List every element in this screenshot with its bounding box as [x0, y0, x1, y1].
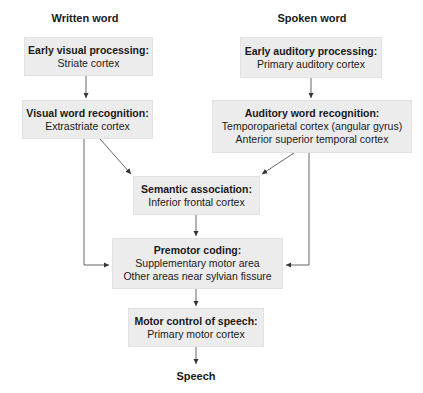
box-title: Motor control of speech: — [129, 315, 263, 328]
box-line: Inferior frontal cortex — [134, 196, 259, 209]
auditory-word-recognition-box: Auditory word recognition: Temporopariet… — [212, 100, 412, 153]
visual-word-recognition-box: Visual word recognition: Extrastriate co… — [22, 100, 153, 139]
written-word-heading: Written word — [35, 12, 135, 24]
box-title: Visual word recognition: — [23, 107, 152, 120]
early-visual-processing-box: Early visual processing: Striate cortex — [24, 37, 153, 76]
box-line: Striate cortex — [25, 57, 152, 70]
motor-control-box: Motor control of speech: Primary motor c… — [128, 308, 264, 347]
box-line: Temporoparietal cortex (angular gyrus) — [213, 120, 411, 133]
box-title: Early auditory processing: — [241, 45, 381, 58]
box-line: Supplementary motor area — [113, 257, 282, 270]
box-line: Primary auditory cortex — [241, 58, 381, 71]
box-line: Anterior superior temporal cortex — [213, 133, 411, 146]
box-title: Early visual processing: — [25, 44, 152, 57]
box-title: Semantic association: — [134, 183, 259, 196]
box-title: Auditory word recognition: — [213, 107, 411, 120]
semantic-association-box: Semantic association: Inferior frontal c… — [133, 176, 260, 215]
spoken-word-heading: Spoken word — [262, 12, 362, 24]
premotor-coding-box: Premotor coding: Supplementary motor are… — [112, 238, 283, 289]
speech-output-label: Speech — [146, 370, 246, 382]
early-auditory-processing-box: Early auditory processing: Primary audit… — [240, 37, 382, 78]
box-title: Premotor coding: — [113, 244, 282, 257]
box-line: Primary motor cortex — [129, 328, 263, 341]
box-line: Extrastriate cortex — [23, 120, 152, 133]
box-line: Other areas near sylvian fissure — [113, 270, 282, 283]
